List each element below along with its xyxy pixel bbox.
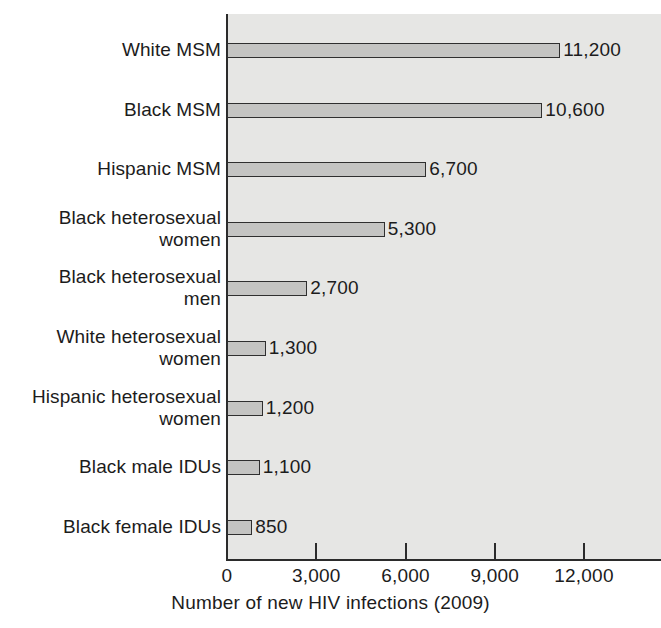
category-label: Black heterosexual women — [0, 207, 221, 251]
x-axis-tick-label: 0 — [222, 565, 233, 587]
category-label: Hispanic heterosexual women — [0, 386, 221, 430]
bar-value-label: 1,200 — [266, 397, 315, 419]
x-axis-tick — [405, 543, 407, 560]
x-axis-tick-label: 12,000 — [554, 565, 613, 587]
bar — [227, 162, 426, 177]
bar-value-label: 850 — [255, 516, 287, 538]
bar — [227, 401, 263, 416]
bar — [227, 43, 560, 58]
bar — [227, 281, 307, 296]
category-label: Hispanic MSM — [0, 158, 221, 180]
x-axis-tick-label: 9,000 — [470, 565, 519, 587]
bar-value-label: 1,100 — [263, 456, 312, 478]
bar-chart-figure: White MSM11,200Black MSM10,600Hispanic M… — [0, 0, 661, 628]
bar — [227, 460, 260, 475]
bar-value-label: 5,300 — [388, 218, 437, 240]
bar-row: White heterosexual women1,300 — [0, 330, 661, 390]
bar-row: White MSM11,200 — [0, 32, 661, 92]
bar — [227, 103, 542, 118]
bar — [227, 341, 266, 356]
bar-row: Hispanic heterosexual women1,200 — [0, 390, 661, 450]
x-axis-tick — [583, 543, 585, 560]
x-axis-tick — [494, 543, 496, 560]
x-axis-title: Number of new HIV infections (2009) — [0, 592, 661, 614]
category-label: Black MSM — [0, 99, 221, 121]
bar-row: Black heterosexual men2,700 — [0, 270, 661, 330]
bar-row: Hispanic MSM6,700 — [0, 151, 661, 211]
x-axis-tick-label: 6,000 — [381, 565, 430, 587]
bar-row: Black heterosexual women5,300 — [0, 211, 661, 271]
bar — [227, 520, 252, 535]
bar-value-label: 2,700 — [310, 277, 359, 299]
bar-value-label: 6,700 — [429, 158, 478, 180]
category-label: Black female IDUs — [0, 516, 221, 538]
x-axis-tick — [315, 543, 317, 560]
x-axis-tick-label: 3,000 — [292, 565, 341, 587]
bar-row: Black male IDUs1,100 — [0, 449, 661, 509]
bar-value-label: 10,600 — [545, 99, 604, 121]
bar-row: Black MSM10,600 — [0, 92, 661, 152]
bar-value-label: 1,300 — [269, 337, 318, 359]
bar-row: Black female IDUs850 — [0, 509, 661, 569]
category-label: Black male IDUs — [0, 456, 221, 478]
category-label: White MSM — [0, 39, 221, 61]
bar — [227, 222, 385, 237]
category-label: White heterosexual women — [0, 326, 221, 370]
category-label: Black heterosexual men — [0, 266, 221, 310]
bar-value-label: 11,200 — [563, 39, 621, 61]
